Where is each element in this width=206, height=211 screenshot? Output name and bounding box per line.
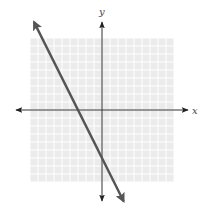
y-axis-label: y: [98, 6, 105, 17]
x-axis-label: x: [192, 105, 198, 116]
coordinate-plane: x y: [0, 0, 206, 211]
